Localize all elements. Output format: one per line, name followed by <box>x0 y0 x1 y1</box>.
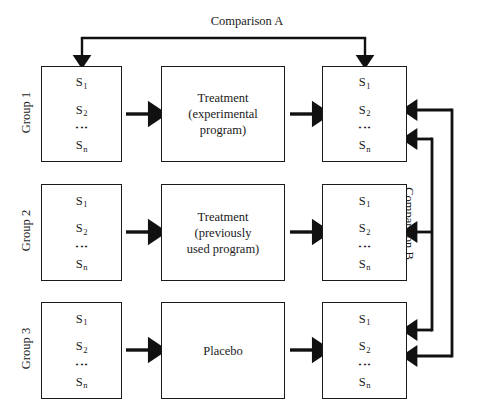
subject-ellipsis: ⋮ <box>358 357 371 372</box>
subject-s2: S2 <box>359 340 371 353</box>
group2-treatment-line-1: Treatment <box>187 209 260 225</box>
group1-treatment-line-1: Treatment <box>188 90 257 106</box>
group-label-2: Group 2 <box>19 191 34 271</box>
group1-treatment-box: Treatment (experimental program) <box>161 66 285 162</box>
subject-s1: S1 <box>76 76 88 89</box>
group1-posttest-box: S1 S2 ⋮ Sn <box>322 66 407 162</box>
group1-treatment-line-3: program) <box>188 122 257 138</box>
subject-sn: Sn <box>359 376 371 389</box>
subject-s2: S2 <box>76 340 88 353</box>
subject-ellipsis: ⋮ <box>358 239 371 254</box>
subject-sn: Sn <box>76 258 88 271</box>
subject-s1: S1 <box>359 76 371 89</box>
group1-treatment-line-2: (experimental <box>188 106 257 122</box>
subject-ellipsis: ⋮ <box>358 120 371 135</box>
subject-s1: S1 <box>359 195 371 208</box>
subject-s1: S1 <box>76 195 88 208</box>
comparison-a-connector <box>82 38 365 58</box>
group1-pretest-box: S1 S2 ⋮ Sn <box>41 66 122 162</box>
subject-ellipsis: ⋮ <box>75 239 88 254</box>
group2-treatment-box: Treatment (previously used program) <box>161 184 285 281</box>
subject-sn: Sn <box>76 139 88 152</box>
group-label-3: Group 3 <box>19 309 34 389</box>
group-label-1: Group 1 <box>19 73 34 153</box>
group3-treatment-box: Placebo <box>161 302 285 399</box>
group2-posttest-box: S1 S2 ⋮ Sn <box>322 184 407 281</box>
group3-pretest-box: S1 S2 ⋮ Sn <box>41 302 122 399</box>
comparison-b-inner-connector <box>414 139 432 330</box>
subject-sn: Sn <box>76 376 88 389</box>
subject-ellipsis: ⋮ <box>75 357 88 372</box>
subject-s2: S2 <box>359 104 371 117</box>
group2-treatment-line-2: (previously <box>187 225 260 241</box>
subject-sn: Sn <box>359 258 371 271</box>
subject-s1: S1 <box>359 313 371 326</box>
subject-s2: S2 <box>76 222 88 235</box>
subject-s1: S1 <box>76 313 88 326</box>
subject-ellipsis: ⋮ <box>75 120 88 135</box>
comparison-a-label: Comparison A <box>144 14 350 29</box>
group2-treatment-line-3: used program) <box>187 241 260 257</box>
experimental-design-diagram: Comparison A Comparison B Group 1 Group … <box>0 0 494 420</box>
subject-sn: Sn <box>359 139 371 152</box>
group3-posttest-box: S1 S2 ⋮ Sn <box>322 302 407 399</box>
group2-pretest-box: S1 S2 ⋮ Sn <box>41 184 122 281</box>
group3-treatment-line-1: Placebo <box>203 343 243 359</box>
subject-s2: S2 <box>359 222 371 235</box>
subject-s2: S2 <box>76 104 88 117</box>
